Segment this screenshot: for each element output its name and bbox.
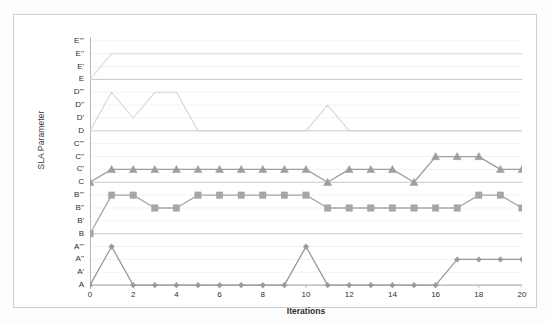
y-tick-label: E' [77, 63, 84, 71]
data-point-marker [519, 257, 522, 263]
data-point-marker [260, 192, 266, 198]
y-tick-label: D''' [74, 88, 84, 96]
data-point-marker [368, 282, 374, 288]
data-point-marker [368, 205, 374, 211]
y-tick-label: E [79, 75, 84, 83]
data-point-marker [324, 205, 330, 211]
data-point-marker [498, 257, 504, 263]
series-line-D [90, 92, 522, 131]
data-point-marker [152, 205, 158, 211]
data-point-marker [519, 205, 522, 211]
x-tick-label: 18 [474, 291, 483, 299]
x-axis-title: Iterations [90, 306, 522, 316]
data-point-marker [476, 192, 482, 198]
data-point-marker [389, 205, 395, 211]
chart-frame: SLA Parameter AA'A''A'''BB'B''B'''CC'C''… [13, 14, 537, 308]
x-tick-label: 4 [174, 291, 178, 299]
y-tick-label: C [78, 178, 84, 186]
data-point-marker [260, 282, 266, 288]
data-point-marker [217, 282, 223, 288]
data-point-marker [152, 282, 158, 288]
y-tick-label: B' [77, 217, 84, 225]
data-point-marker [216, 192, 222, 198]
y-tick-label: A [79, 281, 84, 289]
y-tick-label: A' [77, 268, 84, 276]
data-point-marker [108, 192, 114, 198]
data-point-marker [174, 282, 180, 288]
y-tick-label: D [78, 127, 84, 135]
series-C [90, 153, 522, 186]
chart-figure: SLA Parameter AA'A''A'''BB'B''B'''CC'C''… [0, 0, 550, 323]
data-point-marker [324, 178, 332, 185]
y-tick-label: B [79, 230, 84, 238]
data-point-marker [90, 178, 94, 185]
y-tick-label: C''' [74, 140, 84, 148]
data-point-marker [195, 192, 201, 198]
line-chart-svg [90, 37, 522, 289]
data-point-marker [476, 257, 482, 263]
data-point-marker [238, 282, 244, 288]
y-tick-label: B''' [74, 191, 84, 199]
data-point-marker [346, 205, 352, 211]
data-point-marker [303, 192, 309, 198]
plot-area [90, 37, 522, 289]
x-tick-label: 8 [261, 291, 265, 299]
y-tick-label: A'' [76, 255, 84, 263]
data-point-marker [90, 231, 93, 237]
data-point-marker [497, 192, 503, 198]
x-axis-tick-labels: 02468101214161820 [90, 291, 522, 307]
data-point-marker [454, 205, 460, 211]
x-tick-label: 12 [345, 291, 354, 299]
data-point-marker [282, 282, 288, 288]
data-point-marker [130, 282, 136, 288]
x-tick-label: 2 [131, 291, 135, 299]
y-tick-label: C'' [75, 153, 84, 161]
series-line-A [90, 247, 522, 286]
y-tick-label: A''' [74, 243, 84, 251]
data-point-marker [173, 205, 179, 211]
data-point-marker [325, 282, 331, 288]
series-A [90, 244, 522, 288]
data-point-marker [238, 192, 244, 198]
x-tick-label: 16 [431, 291, 440, 299]
y-tick-label: D'' [75, 101, 84, 109]
data-point-marker [346, 282, 352, 288]
data-point-marker [390, 282, 396, 288]
data-point-marker [411, 205, 417, 211]
y-tick-label: E'' [76, 50, 84, 58]
data-point-marker [195, 282, 201, 288]
x-tick-label: 10 [302, 291, 311, 299]
data-point-marker [109, 244, 115, 250]
x-tick-label: 0 [88, 291, 92, 299]
y-axis-tick-labels: AA'A''A'''BB'B''B'''CC'C''C'''DD'D''D'''… [44, 15, 88, 309]
data-point-marker [130, 192, 136, 198]
x-tick-label: 14 [388, 291, 397, 299]
series-line-B [90, 195, 522, 234]
series-D [90, 92, 522, 131]
series-B [90, 192, 522, 237]
data-point-marker [303, 244, 309, 250]
y-tick-label: E''' [74, 37, 84, 45]
data-point-marker [432, 205, 438, 211]
y-tick-label: C' [77, 165, 84, 173]
y-tick-label: B'' [76, 204, 84, 212]
data-point-marker [281, 192, 287, 198]
data-point-marker [411, 282, 417, 288]
x-tick-label: 20 [518, 291, 527, 299]
y-tick-label: D' [77, 114, 84, 122]
x-tick-label: 6 [217, 291, 221, 299]
